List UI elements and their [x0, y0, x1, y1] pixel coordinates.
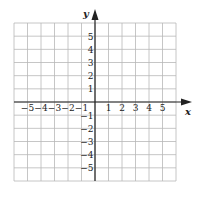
y-axis-label: y	[82, 8, 90, 19]
x-tick-label: 5	[160, 103, 166, 113]
x-tick-label: −5	[21, 103, 35, 113]
y-tick-label: −3	[80, 137, 94, 147]
x-tick-label: −2	[61, 103, 74, 113]
y-tick-label: −2	[80, 124, 93, 134]
x-tick-label: 1	[106, 103, 112, 113]
x-tick-label: −4	[34, 103, 48, 113]
y-tick-label: 5	[88, 32, 94, 42]
x-tick-label: 3	[133, 103, 139, 113]
y-tick-label: −1	[80, 111, 93, 121]
y-tick-label: 2	[88, 71, 94, 81]
x-tick-label: 4	[146, 103, 152, 113]
y-tick-label: 1	[88, 84, 94, 94]
x-tick-label: −3	[48, 103, 62, 113]
y-tick-label: 4	[88, 45, 94, 55]
y-tick-label: −4	[80, 150, 94, 160]
x-tick-label: 2	[119, 103, 125, 113]
x-axis-arrow-icon	[181, 99, 192, 106]
coordinate-grid: x y −5−4−3−2−112345 54321−1−2−3−4−5	[0, 0, 207, 197]
x-axis-label: x	[184, 106, 192, 117]
y-tick-label: −5	[80, 163, 94, 173]
y-tick-label: 3	[88, 58, 94, 68]
y-axis-arrow-icon	[92, 9, 99, 20]
